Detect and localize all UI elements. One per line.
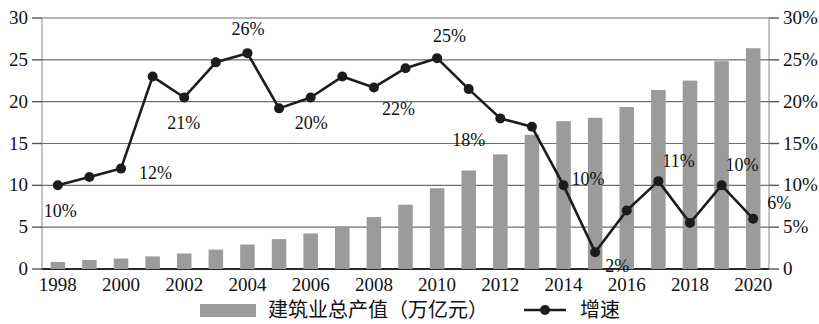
data-label: 6% [767, 194, 791, 212]
x-axis-tick: 2006 [279, 275, 343, 294]
bar [367, 217, 382, 269]
data-label: 10% [572, 170, 605, 188]
bar [209, 250, 224, 269]
bar [683, 81, 698, 269]
y-axis-right-tick: 15% [783, 134, 818, 153]
x-axis-tick: 2020 [721, 275, 785, 294]
legend-label-bar: 建筑业总产值（万亿元） [268, 300, 488, 320]
bar [303, 233, 318, 269]
bar-swatch-icon [200, 304, 256, 317]
data-point-marker [179, 92, 189, 102]
data-label: 22% [382, 100, 415, 118]
y-axis-left-tick: 20 [0, 92, 28, 111]
bar [177, 254, 192, 269]
bar [461, 171, 476, 269]
bar [114, 259, 129, 269]
y-axis-left-tick: 5 [0, 217, 28, 236]
data-point-marker [401, 63, 411, 73]
bar [272, 239, 287, 269]
data-point-marker [116, 164, 126, 174]
bar [145, 256, 160, 269]
legend-item-line: 增速 [522, 300, 620, 320]
data-point-marker [432, 53, 442, 63]
y-axis-left-tick: 10 [0, 175, 28, 194]
y-axis-right-tick: 5% [783, 217, 808, 236]
data-label: 21% [167, 114, 200, 132]
data-point-marker [337, 72, 347, 82]
data-label: 11% [662, 152, 694, 170]
y-axis-left-tick: 15 [0, 134, 28, 153]
bar [51, 262, 66, 269]
data-point-marker [717, 180, 727, 190]
bar-series [51, 48, 761, 269]
y-axis-right-tick: 20% [783, 92, 818, 111]
bar [240, 245, 255, 269]
x-axis-tick: 2014 [532, 275, 596, 294]
data-point-marker [53, 180, 63, 190]
x-axis-tick: 2000 [89, 275, 153, 294]
data-label: 2% [605, 257, 629, 275]
chart-container: 051015202530 05%10%15%20%25%30% 19982000… [0, 0, 819, 324]
y-axis-left-tick: 30 [0, 8, 28, 27]
data-label: 18% [452, 131, 485, 149]
data-point-marker [306, 92, 316, 102]
data-label: 10% [44, 202, 77, 220]
data-label: 20% [295, 114, 328, 132]
data-point-marker [211, 57, 221, 67]
data-point-marker [685, 218, 695, 228]
data-point-marker [369, 82, 379, 92]
data-label: 12% [139, 164, 172, 182]
data-point-marker [84, 172, 94, 182]
y-axis-left-tick: 0 [0, 259, 28, 278]
data-point-marker [590, 247, 600, 257]
y-axis-right-tick: 30% [783, 8, 818, 27]
bar [82, 260, 97, 269]
x-axis-tick: 1998 [26, 275, 90, 294]
x-axis-tick: 2018 [658, 275, 722, 294]
line-marker-icon [522, 303, 568, 317]
x-axis-tick: 2008 [342, 275, 406, 294]
data-point-marker [622, 205, 632, 215]
data-point-marker [527, 122, 537, 132]
chart-legend: 建筑业总产值（万亿元） 增速 [0, 296, 819, 324]
x-axis-tick: 2010 [405, 275, 469, 294]
data-label: 25% [433, 27, 466, 45]
legend-label-line: 增速 [580, 300, 620, 320]
bar [619, 107, 634, 269]
bar [398, 205, 413, 269]
data-point-marker [148, 72, 158, 82]
data-point-marker [748, 214, 758, 224]
data-point-marker [495, 113, 505, 123]
data-label: 10% [726, 156, 759, 174]
data-point-marker [242, 48, 252, 58]
data-point-marker [274, 103, 284, 113]
x-axis-tick: 2012 [468, 275, 532, 294]
data-point-marker [464, 84, 474, 94]
data-label: 26% [231, 20, 264, 38]
y-axis-right-tick: 10% [783, 175, 818, 194]
x-axis-tick: 2004 [215, 275, 279, 294]
bar [493, 154, 508, 269]
y-axis-right-tick: 25% [783, 50, 818, 69]
y-axis-left-tick: 25 [0, 50, 28, 69]
data-point-marker [653, 176, 663, 186]
data-point-marker [559, 180, 569, 190]
bar [430, 188, 445, 269]
x-axis-tick: 2016 [595, 275, 659, 294]
bar [525, 135, 540, 269]
legend-item-bar: 建筑业总产值（万亿元） [200, 300, 488, 320]
x-axis-tick: 2002 [152, 275, 216, 294]
bar [335, 226, 350, 269]
